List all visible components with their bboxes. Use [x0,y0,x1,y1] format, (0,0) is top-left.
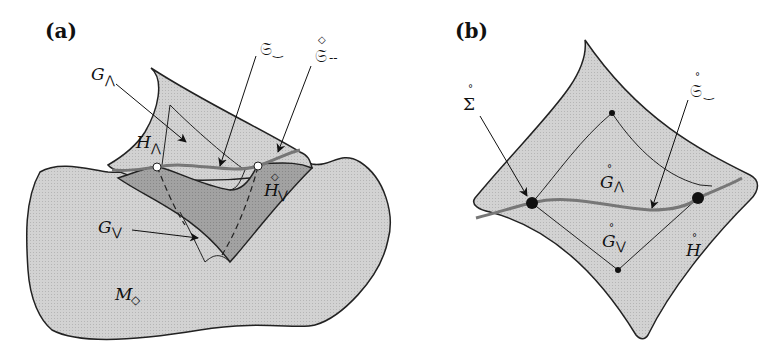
svg-text:◇: ◇ [131,293,141,307]
svg-text:H: H [685,240,702,260]
svg-text:G: G [91,64,105,84]
figure-canvas: (a) G ⋀ H ⋀ 𝔖 [0,0,781,361]
label-sigma: ° Σ [463,83,475,114]
svg-text:⋁: ⋁ [277,188,288,202]
svg-text:‿: ‿ [272,44,284,58]
point-sigma-right [692,192,704,204]
panel-a: (a) G ⋀ H ⋀ 𝔖 [27,19,391,339]
svg-text:⋀: ⋀ [104,73,115,87]
svg-text:H: H [135,132,152,152]
svg-text:𝔖: 𝔖 [260,39,272,59]
svg-text:G: G [98,217,112,237]
svg-text:𝔖: 𝔖 [690,81,702,101]
open-point-left [153,163,161,171]
label-s-smile-b: ° 𝔖 ‿ [690,71,715,101]
svg-text:°: ° [468,83,473,94]
open-point-right [254,162,262,170]
svg-text:⋁: ⋁ [111,225,122,239]
svg-text:G: G [600,172,614,192]
panel-b: (b) ° Σ ° 𝔖 ‿ ° G ⋀ [455,19,758,339]
point-top [609,110,615,116]
svg-text:◇: ◇ [318,34,326,45]
label-s-smile: 𝔖 ‿ [260,39,284,59]
svg-text:𝔖: 𝔖 [315,46,327,66]
arrow-s-dash [278,66,311,152]
svg-text:Σ: Σ [463,94,475,114]
panel-a-label: (a) [45,19,77,43]
svg-text:⋀: ⋀ [150,141,161,155]
panel-b-label: (b) [455,19,488,43]
svg-text:⋀: ⋀ [613,179,624,193]
svg-text:G: G [602,231,616,251]
point-bottom [615,267,621,273]
label-s-dash: ◇ 𝔖 -- [315,34,338,66]
svg-text:--: -- [329,51,338,65]
point-sigma-left [526,197,538,209]
label-g-wedge: G ⋀ [91,64,115,87]
svg-text:⋁: ⋁ [615,239,626,253]
svg-text:‿: ‿ [703,86,715,100]
